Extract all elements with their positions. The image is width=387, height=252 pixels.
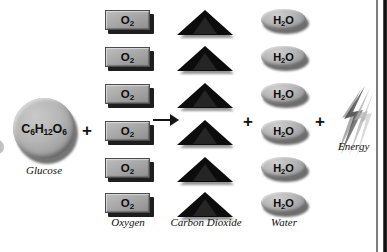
co2-highlight	[193, 90, 217, 107]
water-formula: H2O	[273, 197, 294, 209]
caption-glucose: Glucose	[13, 164, 75, 176]
water-molecule: H2O	[261, 157, 311, 183]
carbon-dioxide-molecule	[177, 157, 235, 185]
plus-operator-1: +	[82, 122, 92, 139]
co2-highlight	[193, 53, 217, 70]
figure-canvas: C6H12O6 Glucose + O2 O2 O2 O2 O2	[0, 0, 387, 252]
carbon-dioxide-molecule	[177, 120, 235, 148]
oxygen-molecule: O2	[105, 84, 154, 108]
energy-lightning-bolt-icon	[333, 86, 377, 164]
carbon-dioxide-molecule	[177, 10, 235, 38]
water-oval-icon: H2O	[261, 83, 306, 104]
glucose-sphere-icon: C6H12O6	[13, 98, 75, 159]
oxygen-box-icon: O2	[105, 10, 150, 30]
co2-highlight	[193, 17, 217, 34]
oxygen-formula: O2	[121, 125, 134, 137]
water-formula: H2O	[273, 51, 294, 63]
oxygen-formula: O2	[121, 197, 134, 209]
oxygen-box-icon: O2	[105, 84, 150, 104]
oxygen-box-icon: O2	[105, 158, 150, 178]
water-molecule: H2O	[261, 9, 311, 35]
water-molecule: H2O	[261, 83, 311, 109]
yields-arrow	[153, 113, 179, 127]
water-oval-icon: H2O	[261, 46, 306, 67]
oxygen-molecule: O2	[105, 121, 154, 145]
page-edge-outer	[383, 0, 387, 252]
oxygen-box-icon: O2	[105, 121, 150, 141]
water-oval-icon: H2O	[261, 192, 306, 213]
glucose-molecule: C6H12O6	[13, 98, 79, 164]
glucose-formula: C6H12O6	[21, 122, 66, 136]
caption-oxygen: Oxygen	[100, 216, 156, 228]
plus-operator-2: +	[243, 113, 253, 130]
oxygen-molecule: O2	[105, 10, 154, 34]
water-formula: H2O	[273, 14, 294, 26]
plus-operator-3: +	[315, 113, 325, 130]
oxygen-formula: O2	[121, 51, 134, 63]
water-molecule: H2O	[261, 120, 311, 146]
oxygen-molecule: O2	[105, 47, 154, 71]
caption-energy: Energy	[338, 140, 380, 152]
water-molecule: H2O	[261, 192, 311, 218]
co2-highlight	[193, 199, 217, 216]
water-formula: H2O	[273, 162, 294, 174]
water-formula: H2O	[273, 125, 294, 137]
water-oval-icon: H2O	[261, 120, 306, 141]
oxygen-formula: O2	[121, 88, 134, 100]
water-formula: H2O	[273, 88, 294, 100]
co2-highlight	[193, 127, 217, 144]
co2-highlight	[193, 164, 217, 181]
oxygen-formula: O2	[121, 14, 134, 26]
water-oval-icon: H2O	[261, 9, 306, 30]
oxygen-molecule: O2	[105, 158, 154, 182]
water-molecule: H2O	[261, 46, 311, 72]
page-edge-inner	[376, 0, 378, 252]
water-oval-icon: H2O	[261, 157, 306, 178]
oxygen-box-icon: O2	[105, 193, 150, 213]
left-margin-artifact	[0, 140, 4, 154]
oxygen-molecule: O2	[105, 193, 154, 217]
carbon-dioxide-molecule	[177, 83, 235, 111]
caption-water: Water	[258, 216, 310, 228]
caption-carbon-dioxide: Carbon Dioxide	[166, 216, 246, 228]
carbon-dioxide-molecule	[177, 46, 235, 74]
oxygen-box-icon: O2	[105, 47, 150, 67]
oxygen-formula: O2	[121, 162, 134, 174]
